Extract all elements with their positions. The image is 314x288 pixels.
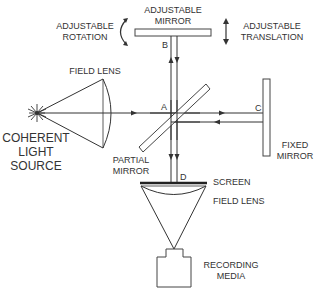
partial-mirror-label: PARTIAL MIRROR — [106, 155, 156, 177]
label-line: SOURCE — [0, 159, 72, 173]
label-line: RECORDING — [200, 260, 262, 271]
fixed-mirror-label: FIXED MIRROR — [276, 140, 314, 162]
point-d-label: D — [180, 172, 187, 182]
label-line: MEDIA — [200, 271, 262, 282]
label-line: ADJUSTABLE — [232, 21, 312, 32]
camera-icon — [157, 249, 191, 287]
fixed-mirror — [263, 79, 270, 156]
point-b-label: B — [162, 40, 168, 50]
label-line: ROTATION — [53, 32, 117, 43]
adjustable-mirror — [135, 29, 211, 36]
coherent-light-source-label: COHERENT LIGHT SOURCE — [0, 131, 72, 173]
recording-media-label: RECORDING MEDIA — [200, 260, 262, 282]
point-c-label: C — [255, 103, 262, 113]
adjustable-translation-label: ADJUSTABLE TRANSLATION — [232, 21, 312, 43]
field-lens-bottom-label: FIELD LENS — [213, 196, 265, 207]
point-a-label: A — [161, 102, 167, 112]
partial-mirror — [139, 84, 210, 152]
label-line: PARTIAL — [106, 155, 156, 166]
label-line: COHERENT — [0, 131, 72, 145]
translation-arrow-icon — [223, 18, 229, 45]
adjustable-mirror-label: ADJUSTABLE MIRROR — [143, 5, 203, 27]
label-line: MIRROR — [106, 166, 156, 177]
label-line: MIRROR — [276, 151, 314, 162]
screen-label: SCREEN — [213, 177, 251, 188]
label-line: ADJUSTABLE — [143, 5, 203, 16]
field-lens-top-label: FIELD LENS — [62, 66, 128, 77]
label-line: ADJUSTABLE — [53, 21, 117, 32]
label-line: FIXED — [276, 140, 314, 151]
field-lens-bottom — [141, 186, 206, 249]
rotation-arrow-icon — [121, 18, 129, 46]
label-line: TRANSLATION — [232, 32, 312, 43]
label-line: MIRROR — [143, 16, 203, 27]
adjustable-rotation-label: ADJUSTABLE ROTATION — [53, 21, 117, 43]
label-line: LIGHT — [0, 145, 72, 159]
